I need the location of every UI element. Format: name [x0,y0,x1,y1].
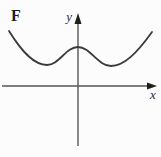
y-axis-label: y [64,9,72,24]
function-curve [9,31,152,66]
figure-f: F y x [0,0,161,157]
y-axis-arrowhead [75,13,82,24]
x-axis-label: x [149,87,156,102]
figure-label: F [11,7,21,24]
figure-plot: F y x [0,0,161,157]
